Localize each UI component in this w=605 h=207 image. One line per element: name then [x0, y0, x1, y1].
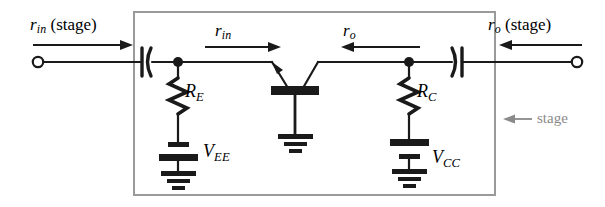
label-r-in: rin — [215, 22, 231, 42]
label-r-e: RE — [185, 82, 204, 103]
transistor-base-bar — [271, 86, 319, 95]
label-r-o-subscript: o — [350, 28, 356, 42]
label-r-e-symbol: R — [185, 81, 196, 101]
label-r-c-subscript: C — [428, 90, 437, 104]
label-r-in-stage-subscript: in — [37, 22, 47, 36]
emitter-arrowhead — [272, 62, 283, 74]
label-r-o: ro — [343, 22, 356, 42]
label-r-o-stage-subscript: o — [495, 22, 501, 36]
label-r-in-stage: rin (stage) — [30, 16, 97, 36]
vcc-short-plate — [399, 154, 420, 159]
r-in-arrowhead — [268, 42, 281, 52]
stage-pointer-arrowhead — [503, 115, 515, 124]
collector-lead-line — [303, 62, 318, 88]
transistor-leads — [272, 62, 318, 88]
base-ground-icon — [278, 134, 313, 153]
r-o-stage-arrowhead — [499, 40, 512, 50]
emitter-branch-ground-icon — [161, 171, 196, 190]
label-v-ee-subscript: EE — [214, 150, 230, 164]
label-r-o-symbol: r — [343, 21, 350, 40]
output-coupling-capacitor-icon — [452, 48, 462, 76]
label-stage: stage — [537, 111, 568, 126]
label-r-c-symbol: R — [417, 81, 428, 101]
annotation-arrows — [33, 40, 582, 52]
vee-short-plate — [168, 142, 189, 147]
label-v-ee-symbol: V — [203, 141, 214, 161]
label-r-o-stage: ro (stage) — [488, 16, 551, 36]
label-r-c: RC — [417, 82, 437, 103]
collector-resistor-zigzag — [400, 78, 418, 114]
output-terminal-circle — [572, 57, 582, 67]
input-terminal-circle — [33, 57, 43, 67]
label-r-in-stage-symbol: r — [30, 15, 37, 34]
collector-branch-ground-icon — [392, 169, 427, 188]
collector-supply-battery-icon — [390, 139, 429, 159]
r-in-stage-arrowhead — [120, 40, 133, 50]
label-r-in-subscript: in — [222, 28, 232, 42]
input-coupling-capacitor-icon — [142, 48, 151, 76]
emitter-supply-battery-icon — [159, 142, 198, 161]
collector-branch — [400, 62, 418, 140]
label-v-cc: VCC — [432, 148, 460, 169]
circuit-diagram-canvas: rin (stage) ro (stage) rin ro RE RC VEE … — [0, 0, 605, 207]
r-o-arrowhead — [341, 42, 354, 52]
label-v-cc-symbol: V — [432, 147, 443, 167]
label-r-in-stage-qualifier: (stage) — [51, 15, 97, 34]
label-r-o-stage-symbol: r — [488, 15, 495, 34]
vee-long-plate — [159, 154, 198, 161]
label-r-in-symbol: r — [215, 21, 222, 40]
label-r-e-subscript: E — [196, 90, 204, 104]
label-r-o-stage-qualifier: (stage) — [505, 15, 551, 34]
vcc-long-plate — [390, 139, 429, 146]
label-v-cc-subscript: CC — [443, 156, 460, 170]
stage-pointer-arrow — [503, 115, 532, 124]
label-v-ee: VEE — [203, 142, 230, 163]
